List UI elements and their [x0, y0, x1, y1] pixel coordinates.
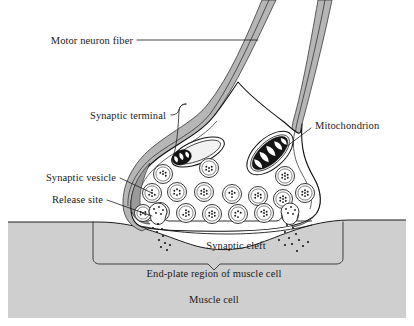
neurotransmitter-dot [231, 190, 233, 192]
neurotransmitter-dot [144, 211, 146, 213]
synaptic-vesicle [168, 183, 187, 202]
neurotransmitter-dot [260, 197, 262, 199]
neurotransmitter-dot [208, 212, 210, 214]
neurotransmitter-dot [206, 190, 208, 192]
neurotransmitter-dot [200, 190, 202, 192]
synaptic-vesicle [276, 167, 295, 186]
neurotransmitter-dot [151, 195, 153, 197]
synaptic-vesicle [195, 183, 214, 202]
neurotransmitter-dot [257, 195, 259, 197]
synaptic-vesicle [154, 165, 173, 184]
neurotransmitter-dot [234, 212, 236, 214]
neurotransmitter-dot [140, 214, 142, 216]
synaptic-vesicle [249, 187, 268, 206]
neurotransmitter-dot [263, 209, 265, 211]
neurotransmitter-dot [182, 214, 184, 216]
neurotransmitter-dot [173, 190, 175, 192]
neurotransmitter-dot [231, 193, 233, 195]
synaptic-vesicle [223, 185, 242, 204]
neurotransmitter-dot [165, 175, 167, 177]
label-synaptic-vesicle: Synaptic vesicle [46, 172, 116, 183]
neurotransmitter-dot [240, 212, 242, 214]
label-end-plate-region: End-plate region of muscle cell [147, 268, 282, 279]
neurotransmitter-dot [279, 197, 281, 199]
neurotransmitter-dot [200, 193, 202, 195]
neurotransmitter-dot [304, 192, 306, 194]
neurotransmitter-dot [281, 174, 283, 176]
neurotransmitter-dot [304, 195, 306, 197]
neurotransmitter-dot [176, 188, 178, 190]
neurotransmitter-dot [203, 191, 205, 193]
neurotransmitter-dot [173, 193, 175, 195]
neurotransmitter-dot [254, 197, 256, 199]
neurotransmitter-dot [260, 194, 262, 196]
neurotransmitter-dot [287, 174, 289, 176]
neurotransmitter-dot [205, 169, 207, 171]
neurotransmitter-dot [208, 167, 210, 169]
neurotransmitter-dot [237, 216, 239, 218]
synaptic-vesicle [229, 205, 248, 224]
neurotransmitter-dot [287, 177, 289, 179]
neurotransmitter-dot [284, 175, 286, 177]
neurotransmitter-dot [206, 193, 208, 195]
neurotransmitter-dot [205, 166, 207, 168]
neurotransmitter-dot [307, 194, 309, 196]
synaptic-vesicle [200, 159, 219, 178]
neurotransmitter-dot [301, 194, 303, 196]
neurotransmitter-dot [304, 189, 306, 191]
neurotransmitter-dot [188, 214, 190, 216]
label-release-site: Release site [52, 194, 103, 205]
neurotransmitter-dot [282, 198, 284, 200]
neurotransmitter-dot [231, 196, 233, 198]
neurotransmitter-dot [263, 215, 265, 217]
diagram-canvas: Motor neuron fiber Synaptic terminal Syn… [0, 0, 414, 326]
neurotransmitter-dot [159, 172, 161, 174]
neurotransmitter-dot [285, 197, 287, 199]
synaptic-vesicle [203, 205, 222, 224]
neurotransmitter-dot [301, 191, 303, 193]
neurotransmitter-dot [211, 166, 213, 168]
neurotransmitter-dot [260, 211, 262, 213]
neurotransmitter-dot [214, 212, 216, 214]
neurotransmitter-dot [188, 211, 190, 213]
neurotransmitter-dot [257, 192, 259, 194]
neurotransmitter-dot [151, 189, 153, 191]
neurotransmitter-dot [185, 212, 187, 214]
neurotransmitter-dot [185, 209, 187, 211]
neurotransmitter-dot [282, 201, 284, 203]
neurotransmitter-dot [307, 191, 309, 193]
neurotransmitter-dot [148, 194, 150, 196]
neurotransmitter-dot [211, 210, 213, 212]
neurotransmitter-dot [179, 193, 181, 195]
release-site-left-fusing-vesicle [149, 203, 167, 225]
neurotransmitter-dot [266, 211, 268, 213]
label-motor-neuron-fiber: Motor neuron fiber [51, 35, 134, 46]
synaptic-vesicle [177, 204, 196, 223]
neurotransmitter-dot [285, 200, 287, 202]
neurotransmitter-dot [279, 200, 281, 202]
neurotransmitter-dot [284, 172, 286, 174]
label-synaptic-terminal: Synaptic terminal [90, 110, 166, 121]
neurotransmitter-dot [176, 194, 178, 196]
neurotransmitter-dot [254, 194, 256, 196]
release-site-right-fusing-vesicle [281, 203, 299, 224]
neurotransmitter-dot [208, 215, 210, 217]
neurotransmitter-dot [162, 170, 164, 172]
neurotransmitter-dot [281, 177, 283, 179]
neurotransmitter-dot [211, 213, 213, 215]
synaptic-vesicle [296, 184, 315, 203]
neurotransmitter-dot [154, 194, 156, 196]
vesicle-inner-ring [231, 207, 245, 221]
neurotransmitter-dot [266, 214, 268, 216]
neurotransmitter-dot [282, 195, 284, 197]
neuromuscular-junction-figure: Motor neuron fiber Synaptic terminal Syn… [0, 0, 414, 326]
neurotransmitter-dot [162, 173, 164, 175]
neurotransmitter-dot [234, 192, 236, 194]
neurotransmitter-dot [234, 215, 236, 217]
label-synaptic-cleft: Synaptic cleft [206, 240, 265, 251]
neurotransmitter-dot [228, 192, 230, 194]
neurotransmitter-dot [203, 194, 205, 196]
synaptic-vesicle [255, 204, 274, 223]
neurotransmitter-dot [284, 178, 286, 180]
neurotransmitter-dot [165, 172, 167, 174]
